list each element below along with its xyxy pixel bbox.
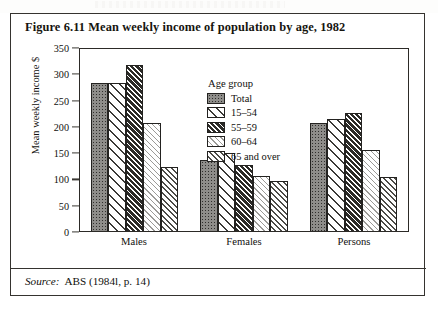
- bar: [126, 65, 144, 231]
- y-axis-ticks: 050100150200250300350: [11, 48, 79, 232]
- y-tick-mark: [72, 126, 79, 127]
- y-tick-mark: [72, 100, 79, 101]
- chart-legend: Age group Total15–5455–5960–6465 and ove…: [207, 78, 332, 164]
- legend-swatch-icon: [207, 151, 225, 162]
- y-tick-label: 250: [54, 95, 69, 106]
- bar: [108, 83, 126, 231]
- bar: [253, 176, 271, 231]
- y-tick-mark: [72, 153, 79, 154]
- y-tick-label: 0: [64, 227, 69, 238]
- legend-item-label: Total: [231, 93, 252, 104]
- bar: [235, 165, 253, 231]
- x-tick-label: Persons: [299, 236, 409, 258]
- bar: [91, 83, 109, 231]
- legend-swatch-icon: [207, 136, 225, 147]
- plot-area: Mean weekly income $ 0501001502002503003…: [11, 42, 426, 264]
- legend-item-label: 15–54: [231, 107, 257, 118]
- y-tick-label: 100: [54, 174, 69, 185]
- bar: [200, 160, 218, 231]
- legend-item: Total: [207, 91, 332, 106]
- legend-title: Age group: [207, 78, 332, 89]
- source-label: Source:: [25, 275, 59, 287]
- bar: [143, 123, 161, 231]
- page-scan-edge: [0, 0, 438, 13]
- legend-swatch-icon: [207, 93, 225, 104]
- figure-title: Figure 6.11 Mean weekly income of popula…: [25, 20, 345, 35]
- y-tick-label: 50: [59, 200, 69, 211]
- y-tick-label: 350: [54, 43, 69, 54]
- legend-swatch-icon: [207, 107, 225, 118]
- bar: [218, 153, 236, 231]
- source-text: ABS (1984l, p. 14): [64, 275, 149, 287]
- legend-item: 60–64: [207, 135, 332, 150]
- y-tick-label: 150: [54, 148, 69, 159]
- bar: [270, 181, 288, 231]
- bar: [345, 113, 363, 231]
- legend-swatch-icon: [207, 122, 225, 133]
- bar: [161, 167, 179, 231]
- source-line: Source:ABS (1984l, p. 14): [25, 275, 150, 287]
- source-divider: [11, 268, 426, 269]
- legend-item-label: 60–64: [231, 136, 257, 147]
- y-tick-label: 300: [54, 69, 69, 80]
- legend-entries: Total15–5455–5960–6465 and over: [207, 91, 332, 164]
- x-tick-label: Females: [189, 236, 299, 258]
- legend-item-label: 55–59: [231, 122, 257, 133]
- legend-item-label: 65 and over: [231, 151, 280, 162]
- x-axis-labels: MalesFemalesPersons: [79, 236, 409, 258]
- bar-group-inner: [91, 49, 179, 231]
- y-tick-mark: [72, 231, 79, 232]
- y-tick-mark: [72, 205, 79, 206]
- y-tick-mark: [72, 74, 79, 75]
- figure-box: Figure 6.11 Mean weekly income of popula…: [10, 13, 425, 296]
- bar: [362, 150, 380, 231]
- bar: [380, 177, 398, 231]
- legend-item: 15–54: [207, 106, 332, 121]
- x-tick-label: Males: [79, 236, 189, 258]
- y-tick-mark: [72, 179, 79, 180]
- y-tick-mark: [72, 47, 79, 48]
- bar-group: [80, 49, 189, 231]
- legend-item: 65 and over: [207, 149, 332, 164]
- legend-item: 55–59: [207, 120, 332, 135]
- y-tick-label: 200: [54, 121, 69, 132]
